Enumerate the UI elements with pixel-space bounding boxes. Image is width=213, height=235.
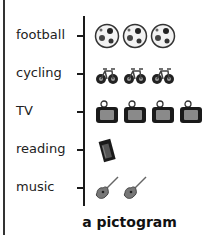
row-icons (94, 173, 148, 203)
row-label: cycling (16, 65, 62, 81)
row-icons (94, 59, 176, 89)
axis-tick (77, 35, 84, 37)
pictogram-row-music: music (0, 172, 213, 202)
tv-icon (122, 99, 148, 125)
axis-tick (77, 111, 84, 113)
tv-icon (94, 99, 120, 125)
row-label: music (16, 179, 54, 195)
row-icons (94, 135, 120, 165)
axis-tick (77, 149, 84, 151)
bicycle-icon (150, 61, 176, 87)
pictogram-row-tv: TV (0, 96, 213, 126)
pictogram-row-cycling: cycling (0, 58, 213, 88)
axis-tick (77, 73, 84, 75)
row-label: reading (16, 141, 65, 157)
row-label: TV (16, 103, 33, 119)
tv-icon (178, 99, 204, 125)
bicycle-icon (122, 61, 148, 87)
guitar-icon (122, 175, 148, 201)
football-icon (122, 23, 148, 49)
guitar-icon (94, 175, 120, 201)
row-label: football (16, 27, 65, 43)
tv-icon (150, 99, 176, 125)
row-icons (94, 97, 204, 127)
football-icon (94, 23, 120, 49)
row-icons (94, 21, 176, 51)
book-icon (94, 137, 120, 163)
bicycle-icon (94, 61, 120, 87)
axis-tick (77, 187, 84, 189)
pictogram-row-reading: reading (0, 134, 213, 164)
football-icon (150, 23, 176, 49)
chart-title: a pictogram (0, 214, 213, 230)
pictogram-row-football: football (0, 20, 213, 50)
